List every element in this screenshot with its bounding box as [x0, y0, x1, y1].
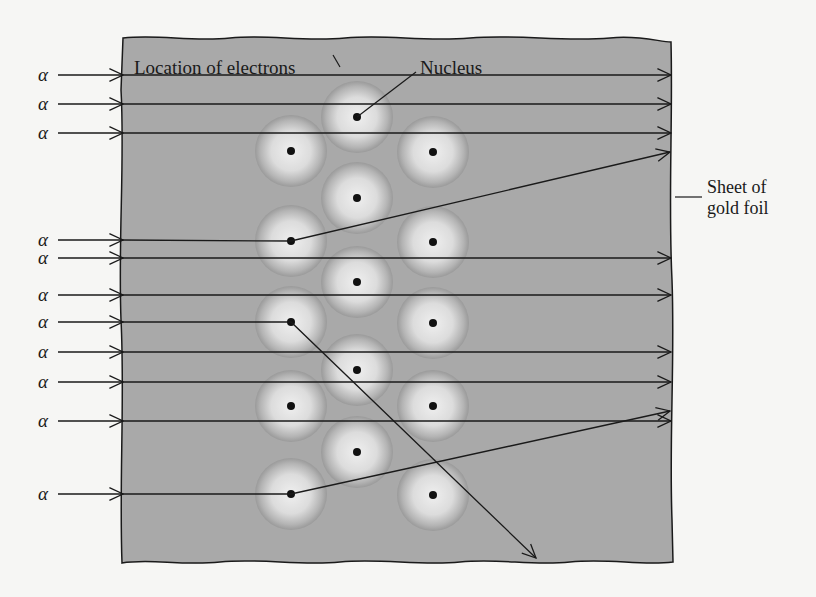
gold-atom [321, 246, 393, 318]
electrons-label: Location of electrons [134, 57, 295, 78]
nucleus-dot [429, 319, 437, 327]
alpha-particle-label: α [38, 64, 49, 85]
gold-atom [255, 370, 327, 442]
nucleus-dot [353, 194, 361, 202]
nucleus-dot [429, 402, 437, 410]
nucleus-dot [353, 448, 361, 456]
nucleus-dot [353, 278, 361, 286]
gold-atom [255, 115, 327, 187]
alpha-particle-label: α [38, 122, 49, 143]
gold-atom [397, 206, 469, 278]
alpha-particle-label: α [38, 483, 49, 504]
nucleus-label: Nucleus [420, 57, 482, 78]
gold-atom [397, 459, 469, 531]
foil-label-line1: Sheet of [707, 177, 766, 197]
alpha-particle-label: α [38, 410, 49, 431]
nucleus-dot [287, 147, 295, 155]
alpha-particle-label: α [38, 284, 49, 305]
alpha-particle-label: α [38, 341, 49, 362]
gold-atom [397, 287, 469, 359]
gold-atom [397, 116, 469, 188]
nucleus-dot [429, 148, 437, 156]
nucleus-dot [429, 491, 437, 499]
alpha-particle-label: α [38, 311, 49, 332]
gold-atom [397, 370, 469, 442]
nucleus-dot [429, 238, 437, 246]
foil-label-line2: gold foil [707, 198, 769, 218]
nucleus-dot [287, 402, 295, 410]
gold-foil-sheet [120, 37, 673, 563]
gold-foil-diagram: ααααααααααα Location of electrons Nucleu… [0, 0, 816, 597]
alpha-particle-label: α [38, 93, 49, 114]
gold-atom [321, 416, 393, 488]
gold-atom [321, 334, 393, 406]
alpha-labels: ααααααααααα [38, 64, 49, 504]
nucleus-dot [353, 366, 361, 374]
gold-atom [321, 162, 393, 234]
alpha-particle-label: α [38, 371, 49, 392]
gold-atoms [255, 81, 469, 531]
alpha-particle-label: α [38, 247, 49, 268]
